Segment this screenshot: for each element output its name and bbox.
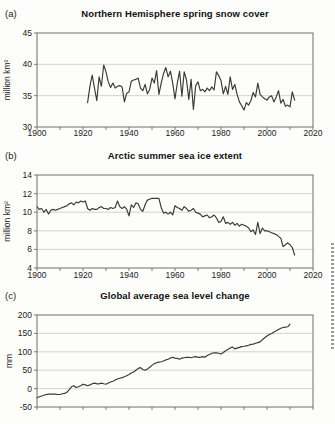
- x-tick-label: 1920: [74, 128, 93, 138]
- y-tick-label: 12: [23, 189, 33, 199]
- y-tick-label: 45: [23, 28, 33, 38]
- x-tick-label: 1940: [120, 270, 139, 280]
- chart-canvas-sea-ice: 4681012141900192019401960198020002020mil…: [0, 166, 335, 286]
- plot-border: [37, 175, 313, 268]
- y-tick-label: -50: [20, 402, 33, 412]
- y-tick-label: 150: [18, 328, 32, 338]
- x-tick-label: 2020: [304, 128, 323, 138]
- x-tick-label: 2000: [258, 270, 277, 280]
- y-tick-label: 35: [23, 91, 33, 101]
- y-tick-label: 50: [23, 365, 33, 375]
- plot-border: [37, 33, 313, 127]
- y-tick-label: 100: [18, 347, 32, 357]
- x-tick-label: 1920: [74, 270, 93, 280]
- x-tick-label: 2000: [258, 128, 277, 138]
- y-axis-label: million km²: [2, 60, 12, 101]
- series-line: [37, 324, 290, 398]
- plot-border: [37, 315, 313, 407]
- panel-label-b: (b): [5, 150, 17, 161]
- y-tick-label: 0: [27, 384, 32, 394]
- x-tick-label: 1940: [120, 128, 139, 138]
- y-tick-label: 10: [23, 207, 33, 217]
- chart-title-b: Arctic summer sea ice extent: [37, 150, 313, 161]
- chart-canvas-snow-cover: 303540451900192019401960198020002020mill…: [0, 24, 335, 146]
- y-tick-label: 40: [23, 59, 33, 69]
- y-tick-label: 8: [27, 226, 32, 236]
- y-axis-label: million km²: [2, 201, 12, 242]
- x-tick-label: 1900: [28, 270, 47, 280]
- chart-canvas-sea-level: -50050100150200mm: [0, 306, 335, 424]
- x-tick-label: 1980: [212, 128, 231, 138]
- figure-page: (a) Northern Hemisphere spring snow cove…: [0, 0, 335, 424]
- x-tick-label: 2020: [304, 270, 323, 280]
- chart-title-a: Northern Hemisphere spring snow cover: [37, 8, 313, 19]
- x-tick-label: 1900: [28, 128, 47, 138]
- y-tick-label: 6: [27, 244, 32, 254]
- panel-label-c: (c): [5, 290, 16, 301]
- y-tick-label: 200: [18, 310, 32, 320]
- y-axis-label: mm: [4, 354, 14, 368]
- x-tick-label: 1960: [166, 270, 185, 280]
- y-tick-label: 14: [23, 170, 33, 180]
- chart-title-c: Global average sea level change: [37, 290, 313, 301]
- x-tick-label: 1980: [212, 270, 231, 280]
- series-line: [37, 198, 295, 255]
- page-edge-text-artifact: [331, 243, 334, 350]
- x-tick-label: 1960: [166, 128, 185, 138]
- panel-label-a: (a): [5, 8, 17, 19]
- series-line: [88, 65, 295, 110]
